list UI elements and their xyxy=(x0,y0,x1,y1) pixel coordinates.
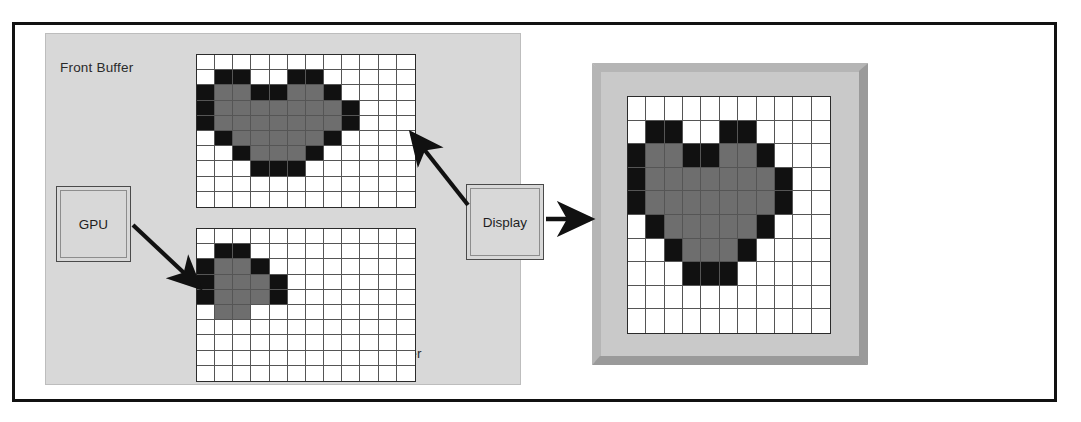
pixel-cell xyxy=(197,229,215,244)
pixel-cell xyxy=(701,309,719,333)
pixel-cell xyxy=(812,97,830,121)
pixel-cell xyxy=(683,286,701,310)
pixel-cell xyxy=(775,239,793,263)
pixel-cell xyxy=(397,335,415,350)
pixel-cell xyxy=(397,101,415,116)
pixel-cell xyxy=(397,305,415,320)
pixel-cell xyxy=(288,146,306,161)
pixel-cell xyxy=(215,366,233,381)
pixel-cell xyxy=(306,131,324,146)
pixel-cell xyxy=(793,286,811,310)
pixel-cell xyxy=(233,146,251,161)
pixel-cell xyxy=(251,146,269,161)
pixel-cell xyxy=(197,101,215,116)
pixel-cell xyxy=(342,70,360,85)
pixel-cell xyxy=(379,290,397,305)
pixel-cell xyxy=(360,351,378,366)
pixel-cell xyxy=(306,55,324,70)
pixel-cell xyxy=(324,335,342,350)
pixel-cell xyxy=(683,97,701,121)
pixel-cell xyxy=(360,259,378,274)
pixel-cell xyxy=(306,192,324,207)
pixel-cell xyxy=(233,70,251,85)
pixel-cell xyxy=(757,239,775,263)
pixel-cell xyxy=(397,275,415,290)
pixel-cell xyxy=(360,101,378,116)
pixel-cell xyxy=(233,335,251,350)
pixel-cell xyxy=(288,101,306,116)
pixel-cell xyxy=(342,101,360,116)
pixel-cell xyxy=(324,55,342,70)
pixel-cell xyxy=(197,335,215,350)
pixel-cell xyxy=(738,262,756,286)
pixel-cell xyxy=(306,305,324,320)
pixel-cell xyxy=(306,366,324,381)
pixel-cell xyxy=(251,161,269,176)
pixel-cell xyxy=(379,366,397,381)
pixel-cell xyxy=(324,244,342,259)
pixel-cell xyxy=(628,239,646,263)
pixel-cell xyxy=(215,161,233,176)
pixel-cell xyxy=(288,85,306,100)
pixel-cell xyxy=(324,85,342,100)
pixel-cell xyxy=(360,55,378,70)
pixel-cell xyxy=(233,192,251,207)
pixel-cell xyxy=(360,146,378,161)
pixel-cell xyxy=(288,335,306,350)
pixel-cell xyxy=(342,320,360,335)
pixel-cell xyxy=(628,215,646,239)
pixel-cell xyxy=(701,262,719,286)
pixel-cell xyxy=(738,121,756,145)
pixel-cell xyxy=(683,144,701,168)
pixel-cell xyxy=(215,192,233,207)
pixel-cell xyxy=(270,161,288,176)
pixel-cell xyxy=(270,366,288,381)
pixel-cell xyxy=(324,101,342,116)
pixel-cell xyxy=(324,146,342,161)
pixel-cell xyxy=(288,177,306,192)
pixel-cell xyxy=(306,335,324,350)
pixel-cell xyxy=(628,286,646,310)
pixel-cell xyxy=(360,320,378,335)
pixel-cell xyxy=(342,131,360,146)
pixel-cell xyxy=(342,335,360,350)
pixel-cell xyxy=(665,286,683,310)
pixel-cell xyxy=(757,121,775,145)
pixel-cell xyxy=(738,168,756,192)
pixel-cell xyxy=(251,259,269,274)
pixel-cell xyxy=(775,191,793,215)
pixel-cell xyxy=(379,146,397,161)
pixel-cell xyxy=(270,177,288,192)
pixel-cell xyxy=(775,144,793,168)
display-node-label: Display xyxy=(483,215,527,230)
pixel-cell xyxy=(342,55,360,70)
pixel-cell xyxy=(233,177,251,192)
pixel-cell xyxy=(306,146,324,161)
pixel-cell xyxy=(812,215,830,239)
pixel-cell xyxy=(757,309,775,333)
pixel-cell xyxy=(197,244,215,259)
pixel-cell xyxy=(701,191,719,215)
pixel-cell xyxy=(379,351,397,366)
pixel-cell xyxy=(665,97,683,121)
pixel-cell xyxy=(628,168,646,192)
gpu-node[interactable]: GPU xyxy=(56,186,131,262)
pixel-cell xyxy=(342,116,360,131)
pixel-cell xyxy=(197,192,215,207)
pixel-cell xyxy=(397,177,415,192)
display-node[interactable]: Display xyxy=(466,184,544,260)
pixel-cell xyxy=(701,215,719,239)
pixel-cell xyxy=(360,305,378,320)
pixel-cell xyxy=(701,286,719,310)
pixel-cell xyxy=(215,101,233,116)
pixel-cell xyxy=(251,335,269,350)
pixel-cell xyxy=(233,229,251,244)
pixel-cell xyxy=(288,229,306,244)
pixel-cell xyxy=(324,161,342,176)
pixel-cell xyxy=(270,305,288,320)
pixel-cell xyxy=(793,144,811,168)
pixel-cell xyxy=(306,177,324,192)
pixel-cell xyxy=(646,286,664,310)
pixel-cell xyxy=(270,351,288,366)
pixel-cell xyxy=(720,286,738,310)
